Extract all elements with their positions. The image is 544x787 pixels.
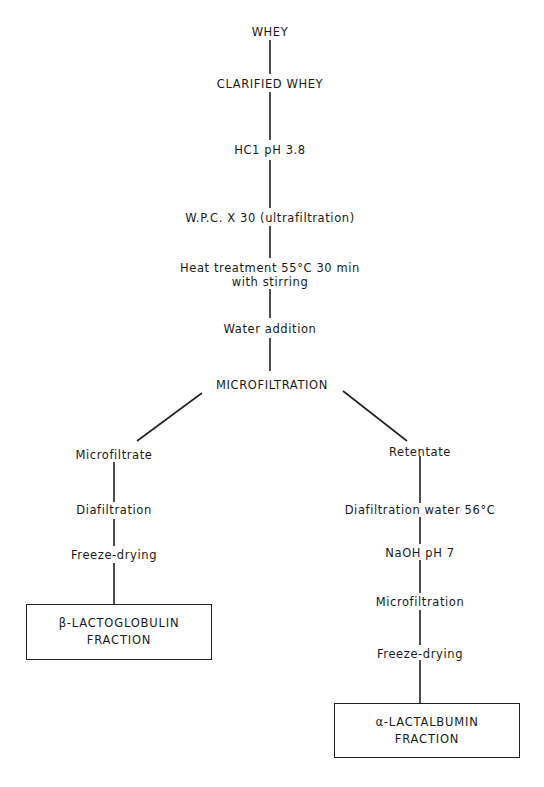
step-naoh-ph: NaOH pH 7 xyxy=(385,546,454,560)
step-retentate: Retentate xyxy=(389,445,451,459)
result-alpha-lactalbumin-fraction: α-LACTALBUMIN FRACTION xyxy=(334,703,520,758)
result-beta-lactoglobulin-fraction: β-LACTOGLOBULIN FRACTION xyxy=(26,604,212,660)
step-freeze-drying-right: Freeze-drying xyxy=(377,647,463,661)
step-microfiltrate: Microfiltrate xyxy=(75,448,152,462)
whey-fractionation-flowchart: WHEY CLARIFIED WHEY HC1 pH 3.8 W.P.C. X … xyxy=(0,0,544,787)
result-beta-line2: FRACTION xyxy=(87,632,151,649)
step-microfiltration: MICROFILTRATION xyxy=(216,378,328,392)
step-whey: WHEY xyxy=(252,25,289,39)
step-microfiltration-right: Microfiltration xyxy=(376,595,465,609)
step-wpc-ultrafiltration: W.P.C. X 30 (ultrafiltration) xyxy=(185,211,355,225)
result-alpha-line1: α-LACTALBUMIN xyxy=(375,714,478,731)
step-heat-treatment-line2: with stirring xyxy=(232,275,309,289)
step-clarified-whey: CLARIFIED WHEY xyxy=(217,77,323,91)
step-freeze-drying-left: Freeze-drying xyxy=(71,548,157,562)
result-beta-line1: β-LACTOGLOBULIN xyxy=(59,615,180,632)
result-alpha-line2: FRACTION xyxy=(395,731,459,748)
step-hcl-ph: HC1 pH 3.8 xyxy=(234,143,306,157)
step-water-addition: Water addition xyxy=(224,322,317,336)
step-diafiltration-water: Diafiltration water 56°C xyxy=(345,503,496,517)
step-heat-treatment: Heat treatment 55°C 30 min xyxy=(180,261,360,275)
connector-lines xyxy=(0,0,544,787)
step-diafiltration: Diafiltration xyxy=(76,503,152,517)
